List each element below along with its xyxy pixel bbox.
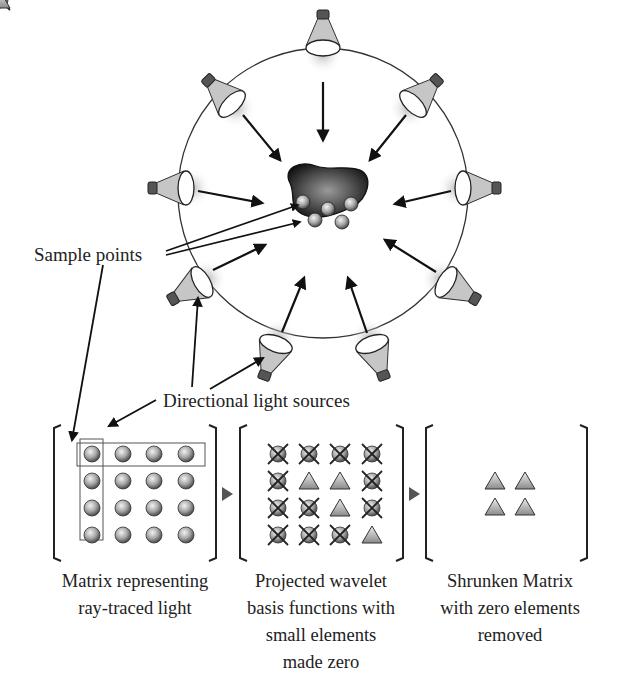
sample-point [335, 215, 349, 229]
lamp-icon [380, 63, 454, 137]
matrix-2-elements [0, 0, 10, 10]
matrix-1-elements [84, 446, 194, 543]
caption-line: Matrix representing [40, 568, 230, 595]
sample-point [344, 197, 358, 211]
object-with-sample-points [288, 164, 368, 229]
sample-point [296, 195, 310, 209]
directional-light-sources-label: Directional light sources [163, 389, 350, 412]
caption-line: ray-traced light [40, 595, 230, 622]
step-arrow-icon [409, 487, 420, 501]
caption-line: removed [410, 622, 610, 649]
caption-line: with zero elements [410, 595, 610, 622]
lamp-icon [303, 10, 343, 74]
caption-line: Projected wavelet [222, 568, 420, 595]
matrix-1-caption: Matrix representing ray-traced light [40, 568, 230, 622]
matrix-3-caption: Shrunken Matrix with zero elements remov… [410, 568, 610, 649]
lamp-icon [437, 168, 501, 208]
lamp-icon [148, 168, 212, 208]
matrix-3-brackets [426, 425, 587, 561]
matrix-2-grid [268, 444, 382, 545]
caption-line: small elements [222, 622, 420, 649]
caption-line: basis functions with [222, 595, 420, 622]
sample-point [308, 213, 322, 227]
lamp-icon [244, 313, 303, 387]
caption-line: made zero [222, 649, 420, 676]
matrix-2-caption: Projected wavelet basis functions with s… [222, 568, 420, 676]
step-arrow-icon [222, 487, 233, 501]
sample-points-label: Sample points [34, 243, 142, 266]
lamp-icon [191, 63, 265, 137]
caption-line: Shrunken Matrix [410, 568, 610, 595]
matrix-3-grid [485, 472, 535, 515]
sample-point [321, 202, 335, 216]
lamp-icon [344, 313, 403, 387]
